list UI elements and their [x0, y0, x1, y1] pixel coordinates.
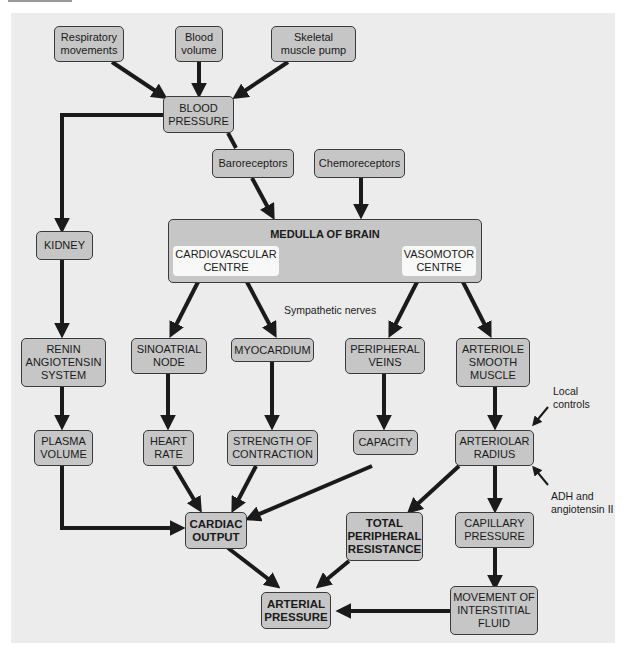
arrow-hr-to-co [174, 466, 199, 508]
arrow-baro-to-medulla [252, 178, 272, 215]
node-strength-of-contraction: STRENGTH OF CONTRACTION [227, 430, 318, 466]
node-baroreceptors: Baroreceptors [212, 149, 294, 178]
arrow-capacity-to-co [250, 466, 372, 518]
node-arterial-pressure: ARTERIAL PRESSURE [261, 592, 331, 629]
node-myocardium: MYOCARDIUM [231, 338, 314, 362]
node-renin-angiotensin-system: RENIN ANGIOTENSIN SYSTEM [21, 338, 106, 387]
line-bp-to-baro [228, 133, 236, 148]
node-vasomotor-centre: VASOMOTOR CENTRE [402, 246, 476, 276]
medulla-title: MEDULLA OF BRAIN [169, 228, 481, 240]
arrow-cardio-to-sa [172, 282, 198, 333]
node-cardiac-output: CARDIAC OUTPUT [185, 512, 247, 549]
arrow-vaso-to-veins [391, 282, 417, 333]
arrow-cardio-to-myo [247, 282, 274, 333]
label-adh-angiotensin: ADH and angiotensin II [551, 490, 613, 516]
node-skeletal-muscle-pump: Skeletal muscle pump [271, 26, 356, 62]
node-capillary-pressure: CAPILLARY PRESSURE [455, 512, 534, 548]
node-cardiovascular-centre: CARDIOVASCULAR CENTRE [173, 246, 279, 276]
node-peripheral-veins: PERIPHERAL VEINS [345, 338, 425, 374]
node-kidney: KIDNEY [36, 231, 93, 260]
arrow-respiratory-to-bp [112, 62, 163, 96]
arrow-plasma-to-co [62, 466, 180, 528]
node-blood-pressure: BLOOD PRESSURE [163, 96, 234, 133]
node-plasma-volume: PLASMA VOLUME [34, 430, 93, 466]
node-blood-volume: Blood volume [175, 26, 223, 62]
node-sinoatrial-node: SINOATRIAL NODE [131, 338, 207, 374]
node-respiratory-movements: Respiratory movements [54, 26, 124, 62]
node-arteriole-smooth-muscle: ARTERIOLE SMOOTH MUSCLE [456, 338, 530, 387]
arrow-bp-to-kidney [62, 115, 163, 228]
arrow-radius-to-tpr [411, 466, 459, 510]
node-heart-rate: HEART RATE [143, 430, 194, 466]
arrow-local-controls [534, 407, 548, 424]
node-arteriolar-radius: ARTERIOLAR RADIUS [455, 430, 534, 466]
node-chemoreceptors: Chemoreceptors [314, 149, 405, 178]
node-total-peripheral-resistance: TOTAL PERIPHERAL RESISTANCE [346, 512, 423, 561]
node-movement-of-interstitial-fluid: MOVEMENT OF INTERSTITIAL FLUID [450, 586, 538, 635]
arrow-vaso-to-arteriole [463, 282, 489, 333]
arrow-strength-to-co [234, 466, 256, 508]
arrow-adh [534, 468, 548, 485]
node-capacity: CAPACITY [353, 430, 418, 455]
label-local-controls: Local controls [553, 385, 590, 411]
arrows-layer [0, 0, 627, 653]
label-sympathetic-nerves: Sympathetic nerves [284, 304, 376, 317]
arrow-skeletal-to-bp [237, 62, 288, 96]
arrow-tpr-to-ap [320, 561, 349, 585]
arrow-co-to-ap [228, 548, 276, 585]
